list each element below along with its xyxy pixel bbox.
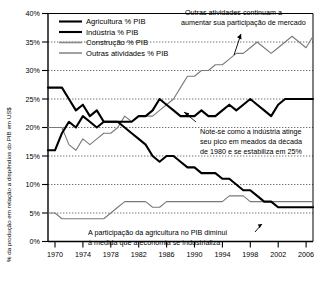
x-tick-label: 2002 [270, 250, 286, 259]
y-tick-label: 15% [26, 152, 41, 161]
annotation-agricultura-line1: A participação da agricultura no PIB dim… [88, 228, 227, 237]
y-tick-label: 40% [26, 9, 41, 18]
annotation-agricultura: A participação da agricultura no PIB dim… [88, 228, 227, 247]
y-axis-title: % da produção em relação a dispêndios do… [5, 107, 12, 262]
y-tick-label: 30% [26, 66, 41, 75]
y-tick-label: 35% [26, 38, 41, 47]
annotation-agricultura-line2: à medida que a economia se industrializa [88, 238, 220, 247]
gdp-composition-line-chart: % da produção em relação a dispêndios do… [0, 0, 322, 290]
y-tick-label: 0% [30, 237, 41, 246]
y-tick-label: 10% [26, 180, 41, 189]
annotation-outras-line1: Outras atividades continuam a [185, 8, 282, 17]
y-tick-label: 5% [30, 209, 41, 218]
x-tick-label: 1998 [242, 250, 258, 259]
x-tick-label: 1982 [131, 250, 147, 259]
y-tick-label: 20% [26, 123, 41, 132]
annotation-industria-line3: de 1980 e se estabiliza em 25% [200, 147, 302, 156]
x-tick-label: 1994 [214, 250, 230, 259]
x-tick-label: 1986 [159, 250, 175, 259]
x-tick-label: 1974 [75, 250, 91, 259]
x-tick-label: 1978 [103, 250, 119, 259]
annotation-industria-line1: Note-se como a indústria atinge [200, 127, 301, 136]
legend-label-outras: Outras atividades % PIB [86, 49, 168, 58]
y-tick-label: 25% [26, 95, 41, 104]
x-tick-label: 2006 [298, 250, 314, 259]
legend-label-industria: Indústria % PIB [86, 28, 138, 37]
annotation-industria-line2: seu pico em meados da década [200, 137, 302, 146]
legend-label-agricultura: Agricultura % PIB [86, 17, 146, 26]
annotation-industria: Note-se como a indústria atinge seu pico… [200, 127, 302, 156]
legend-label-construcao: Construção % PIB [86, 38, 148, 47]
chart-container: % da produção em relação a dispêndios do… [0, 0, 322, 290]
annotation-outras-line2: aumentar sua participação de mercado [181, 18, 306, 27]
x-tick-label: 1970 [47, 250, 63, 259]
x-tick-label: 1990 [187, 250, 203, 259]
